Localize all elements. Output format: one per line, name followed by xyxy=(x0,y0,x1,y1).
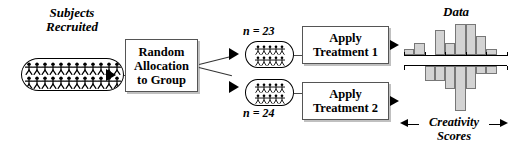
treatment2-line1: Apply xyxy=(329,87,362,101)
person-icon xyxy=(41,62,49,75)
person-icon xyxy=(65,76,73,89)
person-icon xyxy=(279,94,285,104)
people-row xyxy=(246,44,293,55)
histogram-bars-up xyxy=(404,21,507,55)
diagram-canvas: Subjects Recruited Random Allocation to … xyxy=(0,0,511,154)
person-icon xyxy=(57,76,65,89)
person-icon xyxy=(279,56,285,66)
histogram-bar xyxy=(466,66,476,89)
connector-line-allocation-to-group2 xyxy=(199,67,232,76)
axis-tick xyxy=(466,52,467,56)
histogram-bar xyxy=(414,43,424,55)
person-icon xyxy=(89,76,97,89)
histogram-bar xyxy=(476,36,486,55)
person-icon xyxy=(41,76,49,89)
axis-tick xyxy=(507,66,508,70)
subjects-recruited-label: Subjects Recruited xyxy=(24,6,120,34)
creativity-line2: Scores xyxy=(437,129,471,143)
histogram-bar xyxy=(476,66,486,74)
arrow-allocation-to-group2 xyxy=(229,81,239,93)
axis-tick xyxy=(404,52,405,56)
people-row xyxy=(246,55,293,66)
subject-pool-group1 xyxy=(245,41,294,68)
person-icon xyxy=(25,62,33,75)
histogram-bar xyxy=(445,43,455,55)
histogram-bar xyxy=(425,66,435,81)
group1-n-label: n = 23 xyxy=(243,25,275,38)
subjects-label-line2: Recruited xyxy=(46,19,98,34)
person-icon xyxy=(25,76,33,89)
random-allocation-box: Random Allocation to Group xyxy=(125,39,198,92)
axis-tick xyxy=(486,52,487,56)
treatment1-line1: Apply xyxy=(329,31,362,45)
connector-line-allocation-to-group1 xyxy=(199,56,232,65)
person-icon xyxy=(49,62,57,75)
axis-tick xyxy=(425,52,426,56)
treatment1-line2: Treatment 1 xyxy=(313,45,378,59)
histogram-bar xyxy=(435,66,445,81)
person-icon xyxy=(33,76,41,89)
allocation-line1: Random xyxy=(139,45,185,59)
people-row xyxy=(246,93,293,104)
histogram-bar xyxy=(455,66,465,111)
axis-tick xyxy=(507,52,508,56)
group2-n-label: n = 24 xyxy=(243,107,275,120)
person-icon xyxy=(49,76,57,89)
person-icon xyxy=(57,62,65,75)
person-icon xyxy=(97,76,105,89)
arrow-treatment2-to-data xyxy=(390,96,399,106)
person-icon xyxy=(73,62,81,75)
treatment2-line2: Treatment 2 xyxy=(313,101,378,115)
person-icon xyxy=(81,62,89,75)
axis-tick xyxy=(445,52,446,56)
person-icon xyxy=(97,62,105,75)
allocation-line2: Allocation xyxy=(134,59,189,73)
creativity-line1: Creativity xyxy=(429,115,479,129)
apply-treatment-2-box: Apply Treatment 2 xyxy=(302,82,389,120)
person-icon xyxy=(89,62,97,75)
arrow-treatment1-to-data xyxy=(390,40,399,50)
allocation-line3: to Group xyxy=(137,73,186,87)
histogram-bar xyxy=(445,66,455,89)
apply-treatment-1-box: Apply Treatment 1 xyxy=(302,26,389,64)
histogram-axis-1 xyxy=(404,55,507,56)
histogram-treatment-1 xyxy=(404,21,507,55)
subjects-label-line1: Subjects xyxy=(50,5,95,20)
person-icon xyxy=(73,76,81,89)
histogram-bar xyxy=(466,24,476,55)
creativity-scores-text: Creativity Scores xyxy=(398,116,510,143)
histogram-bar xyxy=(455,24,465,55)
person-icon xyxy=(33,62,41,75)
histogram-treatment-2 xyxy=(404,66,507,115)
histogram-bar xyxy=(435,30,445,55)
person-icon xyxy=(279,83,285,93)
people-row xyxy=(246,82,293,93)
arrow-allocation-to-group1 xyxy=(229,48,239,60)
person-icon xyxy=(279,45,285,55)
histogram-bars-down xyxy=(404,66,507,115)
person-icon xyxy=(81,76,89,89)
creativity-scores-axis-label: Creativity Scores xyxy=(398,116,510,152)
arrow-pool-to-allocation xyxy=(106,69,116,81)
person-icon xyxy=(65,62,73,75)
data-label: Data xyxy=(408,5,504,19)
subject-pool-group2 xyxy=(245,79,294,106)
histogram-bar xyxy=(486,66,496,74)
